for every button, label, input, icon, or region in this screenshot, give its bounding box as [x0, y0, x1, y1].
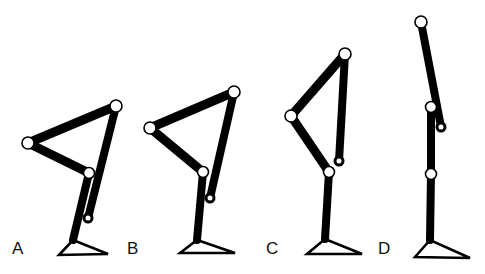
upper-link — [150, 92, 234, 128]
mid-joint-icon — [198, 167, 209, 178]
pin-joint-icon — [206, 194, 214, 202]
figure-label: A — [12, 239, 24, 258]
leg-linkage-diagram: A B C D — [0, 0, 485, 274]
top-joint-icon — [110, 100, 122, 112]
figure-c: C — [266, 48, 362, 258]
pin-joint-icon — [84, 214, 92, 222]
left-joint-icon — [285, 110, 297, 122]
foot-triangle — [180, 240, 235, 253]
shank-bar — [73, 173, 89, 240]
pin-joint-icon — [335, 157, 343, 165]
figure-label: C — [266, 239, 278, 258]
strut-bar — [210, 92, 234, 198]
top-joint-icon — [415, 16, 427, 28]
mid-joint-icon — [426, 102, 437, 113]
figure-label: B — [127, 239, 138, 258]
figure-a: A — [12, 100, 122, 258]
lower-link — [28, 143, 89, 173]
mid-joint-icon — [324, 167, 335, 178]
pin-joint-icon — [437, 123, 445, 131]
top-joint-icon — [228, 86, 240, 98]
figure-d: D — [378, 16, 470, 258]
strut-bar — [88, 106, 116, 218]
lower-link — [150, 128, 203, 172]
upper-link — [28, 106, 116, 143]
foot-triangle — [415, 240, 470, 258]
upper-link — [291, 54, 345, 116]
foot-triangle — [307, 239, 362, 254]
shank-bar — [197, 172, 203, 240]
shank-bar — [325, 172, 329, 239]
mid-joint-icon — [84, 168, 95, 179]
left-joint-icon — [22, 137, 34, 149]
strut-bar — [339, 54, 345, 161]
shank-bar — [430, 174, 431, 240]
lower-link — [291, 116, 329, 172]
left-joint-icon — [144, 122, 156, 134]
top-joint-icon — [339, 48, 351, 60]
figure-label: D — [378, 239, 390, 258]
lower-joint-icon — [426, 169, 437, 180]
foot-triangle — [59, 240, 108, 255]
figure-b: B — [127, 86, 240, 258]
